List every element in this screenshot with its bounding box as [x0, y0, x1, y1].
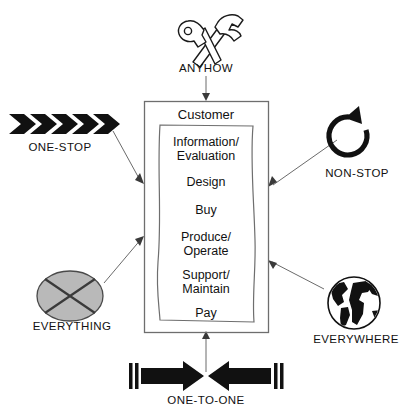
circular-arrow-icon [329, 106, 367, 155]
connector-everywhere [272, 262, 324, 289]
stage-line: Maintain [182, 282, 229, 296]
crossed-circle-icon [37, 271, 103, 321]
label-non-stop: NON-STOP [325, 167, 389, 180]
stage-information-evaluation: Information/ Evaluation [173, 135, 239, 163]
stage-pay: Pay [195, 306, 217, 320]
label-anyhow: ANYHOW [179, 62, 233, 75]
stage-line: Information/ [173, 135, 239, 149]
stage-design: Design [187, 175, 226, 189]
stage-produce-operate: Produce/ Operate [181, 230, 231, 258]
connector-everything [104, 238, 142, 283]
stage-line: Evaluation [173, 149, 239, 163]
stage-line: Pay [195, 306, 217, 320]
connector-one-stop [113, 131, 141, 182]
label-everywhere: EVERYWHERE [313, 333, 399, 346]
globe-icon [328, 277, 384, 329]
label-everything: EVERYTHING [33, 320, 112, 333]
wrench-hammer-icon [178, 15, 243, 67]
stage-line: Produce/ [181, 230, 231, 244]
stage-line: Buy [195, 203, 217, 217]
chevron-arrows-icon [9, 114, 120, 134]
label-one-stop: ONE-STOP [28, 141, 91, 154]
stage-line: Support/ [182, 268, 229, 282]
label-customer: Customer [178, 108, 234, 123]
stage-line: Operate [181, 244, 231, 258]
diagram-canvas: ANYHOW ONE-STOP NON-STOP EVERYTHING EVER… [0, 0, 404, 412]
stage-support-maintain: Support/ Maintain [182, 268, 229, 296]
stage-line: Design [187, 175, 226, 189]
label-one-to-one: ONE-TO-ONE [167, 394, 244, 407]
stage-buy: Buy [195, 203, 217, 217]
